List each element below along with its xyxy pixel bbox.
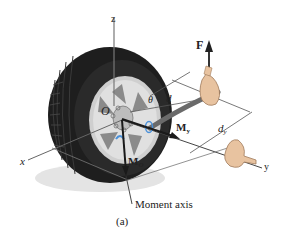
origin-label: O (101, 105, 110, 117)
distance-dy-label: dy (218, 123, 227, 136)
right-hand-rule-hand (225, 140, 256, 168)
moment-o-label: MO (128, 156, 143, 169)
theta-label: θ (148, 95, 153, 105)
wheel-moment-diagram: z x y O F θ d dy My MO Moment axis (a) (0, 0, 286, 231)
hand-on-wrench (200, 66, 220, 105)
y-axis-label: y (264, 162, 269, 172)
figure-caption: (a) (116, 216, 128, 227)
distance-d-label: d (166, 93, 172, 104)
x-axis-label: x (20, 156, 25, 167)
diagram-canvas (0, 0, 286, 231)
force-label: F (196, 39, 203, 51)
moment-y-label: My (176, 122, 190, 135)
z-axis-label: z (111, 14, 115, 24)
moment-axis-label: Moment axis (135, 199, 193, 210)
